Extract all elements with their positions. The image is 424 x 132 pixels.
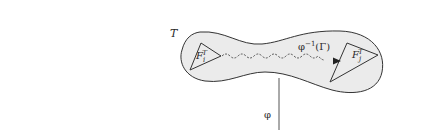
face-Fj-label: FjT (352, 49, 363, 63)
face-Fi-sub: i (203, 56, 205, 64)
face-Fj-sup: T (358, 48, 363, 56)
path-label: φ−1(Γ) (298, 41, 330, 52)
region-label: T (170, 28, 177, 39)
face-Fj-sub: j (359, 55, 361, 63)
map-label: φ (264, 110, 271, 120)
face-Fi-sup: T (202, 49, 207, 57)
face-Fi-label: FiT (196, 50, 207, 64)
path-label-arg: (Γ) (315, 41, 330, 52)
path-label-fn: φ (298, 41, 305, 52)
diagram-canvas (0, 0, 424, 132)
path-label-exp: −1 (305, 40, 315, 48)
